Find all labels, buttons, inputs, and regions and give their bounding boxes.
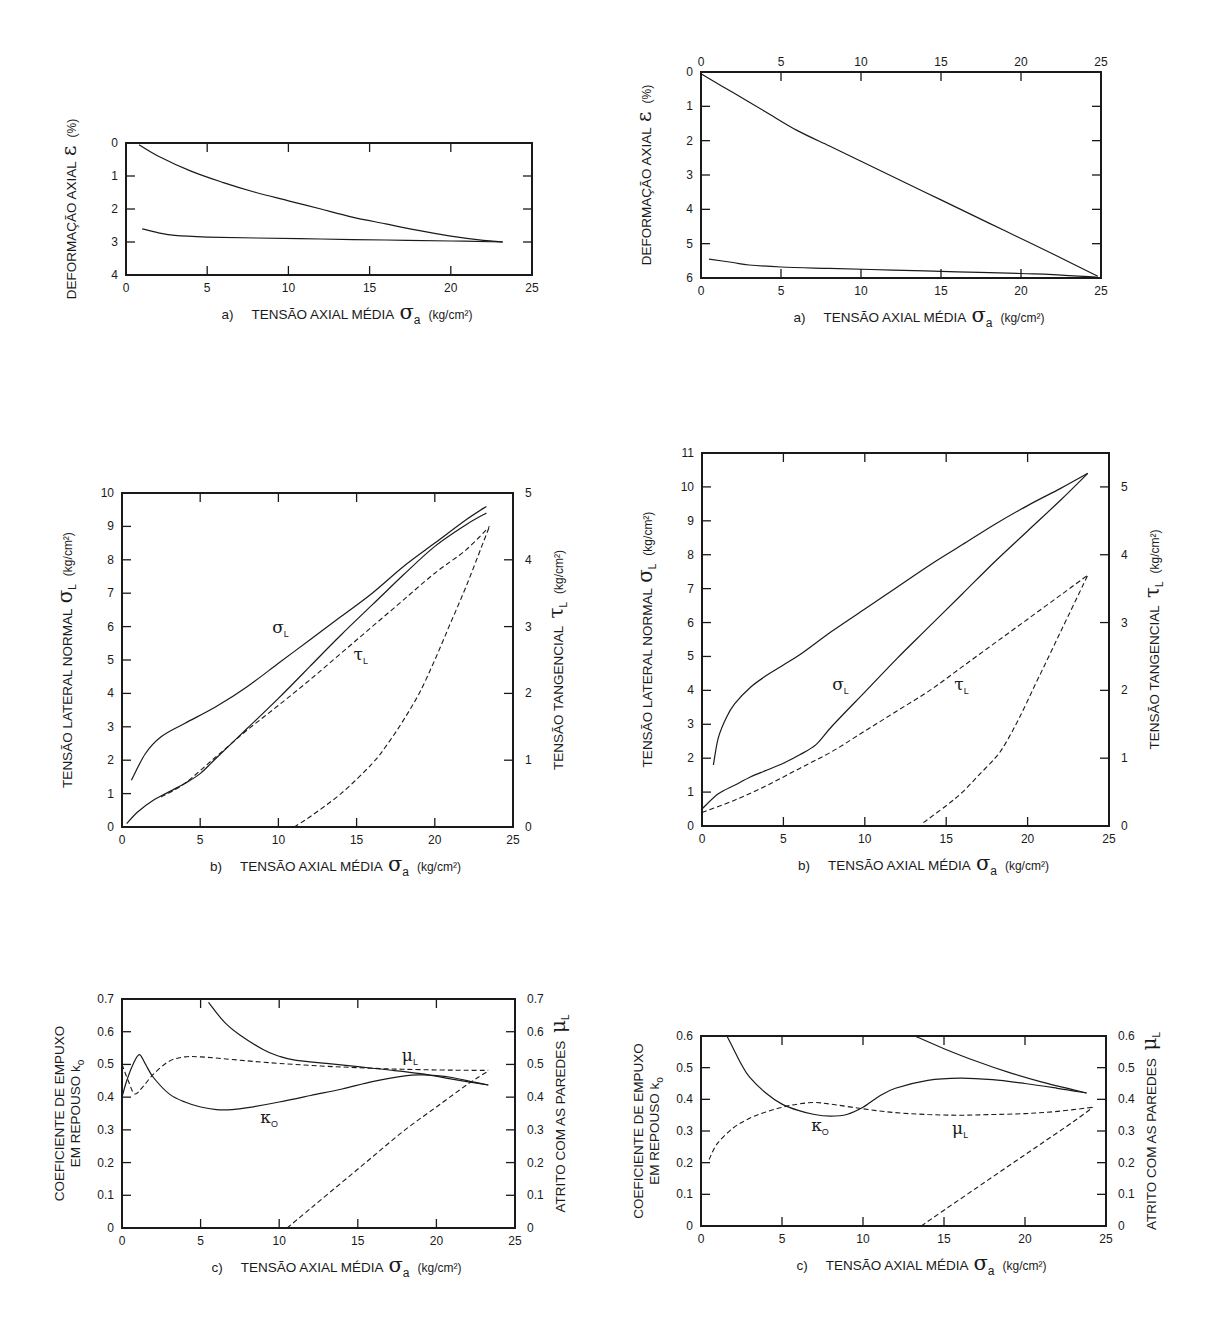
y-tick-label: 0 <box>686 1219 693 1233</box>
series-line <box>702 575 1088 812</box>
x-tick-label: 20 <box>428 833 442 847</box>
y-tick-label: 0 <box>687 819 694 833</box>
y-tick-label: 0.2 <box>97 1156 114 1170</box>
x-tick-label-top: 15 <box>934 55 948 69</box>
series-line <box>127 513 487 824</box>
series-line <box>709 259 1098 277</box>
series-line <box>921 1107 1093 1226</box>
y-tick-label: 2 <box>107 753 114 767</box>
y-tick-label: 0 <box>107 1221 114 1235</box>
series-line <box>294 526 490 827</box>
series-line <box>209 1002 489 1085</box>
y-axis-right-title: TENSÃO TANGENCIAL τL(kg/cm²) <box>1140 529 1165 749</box>
curve-label: μL <box>402 1045 418 1067</box>
x-tick-label-top: 25 <box>1094 55 1108 69</box>
y-right-tick-label: 0 <box>1121 819 1128 833</box>
chart-left-c: 051015202500.10.20.30.40.50.60.700.10.20… <box>52 992 571 1280</box>
y-right-tick-label: 0.4 <box>527 1090 544 1104</box>
y-tick-label: 0.1 <box>676 1187 693 1201</box>
curve-label: σL <box>832 674 849 696</box>
y-tick-label: 3 <box>111 235 118 249</box>
x-tick-label-top: 0 <box>698 55 705 69</box>
y-right-tick-label: 0 <box>525 820 532 834</box>
y-axis-right: 00.10.20.30.40.50.6 <box>1097 1029 1135 1233</box>
y-tick-label: 7 <box>107 586 114 600</box>
y-tick-label: 6 <box>686 271 693 285</box>
y-right-tick-label: 3 <box>525 620 532 634</box>
x-tick-label: 10 <box>854 284 868 298</box>
x-tick-label-top: 5 <box>778 55 785 69</box>
y-tick-label: 10 <box>101 486 115 500</box>
x-tick-label: 25 <box>1094 284 1108 298</box>
y-tick-label: 0 <box>107 820 114 834</box>
x-axis: 0510152025 <box>699 453 1116 846</box>
x-tick-label: 0 <box>698 284 705 298</box>
x-tick-label: 15 <box>350 833 364 847</box>
x-axis-title: c)TENSÃO AXIAL MÉDIA σa(kg/cm²) <box>796 1251 1046 1278</box>
y-axis-left: 0123456 <box>686 65 1101 285</box>
x-tick-label: 25 <box>508 1234 522 1248</box>
x-tick-label: 20 <box>1018 1232 1032 1246</box>
y-tick-label: 0.1 <box>97 1188 114 1202</box>
y-right-tick-label: 0 <box>1118 1219 1125 1233</box>
series-line <box>923 575 1087 823</box>
x-tick-label: 25 <box>1099 1232 1113 1246</box>
x-tick-label: 15 <box>351 1234 365 1248</box>
plot-frame <box>701 72 1101 278</box>
curve-label: κO <box>811 1115 829 1137</box>
plot-frame <box>701 1036 1106 1226</box>
y-right-tick-label: 0.1 <box>1118 1187 1135 1201</box>
y-right-tick-label: 2 <box>525 686 532 700</box>
y-tick-label: 1 <box>687 785 694 799</box>
y-tick-label: 8 <box>687 548 694 562</box>
series-group <box>122 1002 488 1228</box>
y-axis-right-title: TENSÃO TANGENCIAL τL(kg/cm²) <box>544 550 569 770</box>
x-tick-label: 10 <box>272 833 286 847</box>
x-tick-label-top: 20 <box>1014 55 1028 69</box>
y-right-tick-label: 0.3 <box>1118 1124 1135 1138</box>
chart-right-c: 051015202500.10.20.30.40.50.600.10.20.30… <box>631 1029 1162 1278</box>
y-axis-left: 012345678910 <box>101 486 131 834</box>
y-right-tick-label: 0.4 <box>1118 1092 1135 1106</box>
y-right-tick-label: 0 <box>527 1221 534 1235</box>
y-right-tick-label: 5 <box>525 486 532 500</box>
x-tick-label: 0 <box>119 1234 126 1248</box>
x-tick-label: 5 <box>780 832 787 846</box>
y-axis-title: DEFORMAÇÃO AXIAL ε(%) <box>632 85 656 265</box>
series-line <box>701 74 1098 277</box>
curve-label: κO <box>260 1107 278 1129</box>
y-tick-label: 4 <box>687 683 694 697</box>
x-tick-label: 15 <box>934 284 948 298</box>
series-line <box>915 1036 1087 1093</box>
x-tick-label: 15 <box>937 1232 951 1246</box>
plot-frame <box>126 143 532 275</box>
series-group <box>701 74 1098 278</box>
y-tick-label: 6 <box>107 620 114 634</box>
x-tick-label: 10 <box>856 1232 870 1246</box>
y-axis-title-line1: COEFICIENTE DE EMPUXO <box>52 1026 67 1202</box>
y-tick-label: 7 <box>687 582 694 596</box>
series-group <box>127 506 490 827</box>
y-right-tick-label: 0.3 <box>527 1123 544 1137</box>
curve-label: τL <box>954 674 968 696</box>
x-tick-label: 5 <box>204 281 211 295</box>
x-axis-title: a)TENSÃO AXIAL MÉDIA σa(kg/cm²) <box>222 300 473 327</box>
y-axis-left: 00.10.20.30.40.50.6 <box>676 1029 710 1233</box>
x-axis-title: a)TENSÃO AXIAL MÉDIA σa(kg/cm²) <box>794 303 1045 330</box>
y-tick-label: 6 <box>687 616 694 630</box>
y-tick-label: 0.3 <box>676 1124 693 1138</box>
y-tick-label: 0 <box>111 136 118 150</box>
y-tick-label: 4 <box>107 686 114 700</box>
x-tick-label: 0 <box>123 281 130 295</box>
x-tick-label: 10 <box>858 832 872 846</box>
y-tick-label: 4 <box>686 202 693 216</box>
plot-frame <box>702 453 1109 826</box>
chart-right-a: 005510101515202025250123456a)TENSÃO AXIA… <box>632 55 1108 330</box>
chart-left-b: 0510152025012345678910012345σLτLb)TENSÃO… <box>53 486 569 879</box>
y-right-tick-label: 0.6 <box>527 1025 544 1039</box>
series-line <box>161 526 489 797</box>
y-right-tick-label: 5 <box>1121 480 1128 494</box>
x-tick-label: 15 <box>363 281 377 295</box>
y-tick-label: 2 <box>687 751 694 765</box>
y-tick-label: 1 <box>111 169 118 183</box>
